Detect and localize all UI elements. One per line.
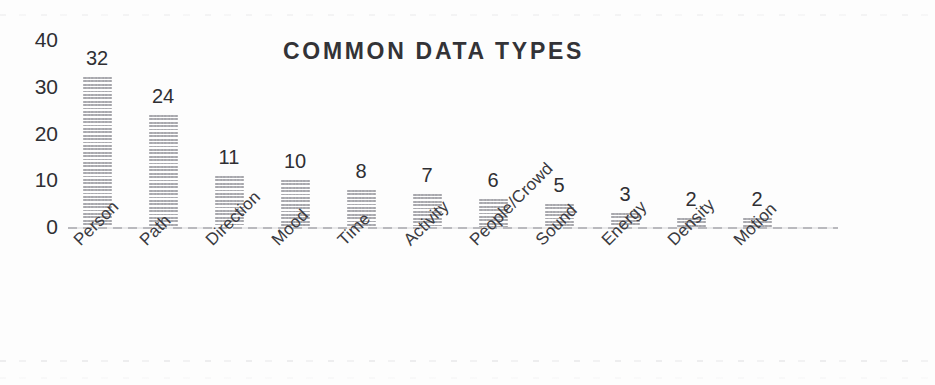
y-axis-tick-label: 30 [12, 76, 58, 97]
bar-value-label: 32 [64, 48, 130, 68]
bar-group: 24 [130, 75, 196, 227]
bar-value-label: 24 [130, 86, 196, 106]
bar [149, 115, 178, 227]
bar-group: 32 [64, 37, 130, 227]
bar-value-label: 2 [724, 189, 790, 209]
bar-value-label: 3 [592, 184, 658, 204]
y-axis-tick-label: 10 [12, 169, 58, 190]
bar-value-label: 11 [196, 147, 262, 167]
x-axis-baseline [68, 227, 838, 229]
y-axis-tick-label: 40 [12, 29, 58, 50]
bar-value-label: 7 [394, 165, 460, 185]
plot-area: 010203040 322411108765322 PersonPathDire… [0, 0, 935, 385]
chart-container: COMMON DATA TYPES 010203040 322411108765… [0, 0, 935, 385]
y-axis-tick-label: 20 [12, 123, 58, 144]
bar-value-label: 10 [262, 151, 328, 171]
bar-value-label: 8 [328, 161, 394, 181]
y-axis-tick-label: 0 [12, 216, 58, 237]
